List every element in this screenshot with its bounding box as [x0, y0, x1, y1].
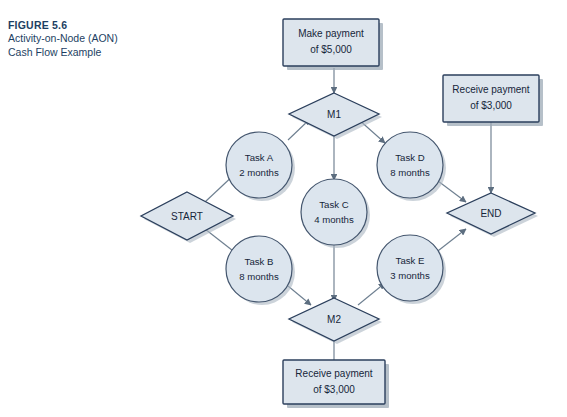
node-task-d-label-1: Task D [395, 152, 424, 163]
node-task-d-label-2: 8 months [390, 167, 430, 178]
node-task-b[interactable]: Task B 8 months [226, 236, 295, 305]
node-m1[interactable]: M1 [289, 93, 382, 139]
node-receive-payment-bottom[interactable]: Receive payment of $3,000 [283, 360, 389, 408]
node-task-e[interactable]: Task E 3 months [377, 235, 446, 304]
node-task-c-label-2: 4 months [314, 214, 354, 225]
node-receive-right-label-2: of $3,000 [470, 100, 512, 111]
node-m1-label: M1 [327, 109, 341, 120]
node-start[interactable]: START [141, 192, 236, 243]
node-receive-bottom-label-2: of $3,000 [313, 384, 355, 395]
node-task-a[interactable]: Task A 2 months [226, 132, 295, 201]
edge-task-e-to-end [434, 229, 466, 254]
node-m2[interactable]: M2 [289, 298, 382, 344]
node-task-c[interactable]: Task C 4 months [301, 179, 370, 248]
node-make-payment-label-2: of $5,000 [310, 44, 352, 55]
node-receive-payment-right[interactable]: Receive payment of $3,000 [443, 75, 543, 126]
aon-network-diagram: Make payment of $5,000 Receive payment o… [0, 0, 567, 417]
node-m2-label: M2 [327, 314, 341, 325]
node-make-payment-label-1: Make payment [298, 28, 364, 39]
node-task-b-label-2: 8 months [239, 271, 279, 282]
node-task-c-label-1: Task C [319, 199, 348, 210]
node-receive-right-label-1: Receive payment [452, 84, 529, 95]
edge-m2-to-task-e [358, 283, 385, 305]
node-make-payment[interactable]: Make payment of $5,000 [283, 19, 383, 70]
figure-page: FIGURE 5.6 Activity-on-Node (AON) Cash F… [0, 0, 567, 417]
node-task-d[interactable]: Task D 8 months [377, 132, 446, 201]
node-end-label: END [480, 208, 501, 219]
node-task-b-label-1: Task B [245, 256, 274, 267]
node-task-e-label-2: 3 months [390, 270, 430, 281]
node-task-a-label-1: Task A [245, 152, 274, 163]
node-start-label: START [171, 211, 203, 222]
node-task-e-label-1: Task E [396, 255, 425, 266]
edge-task-b-to-m2 [288, 286, 311, 305]
node-receive-bottom-label-1: Receive payment [295, 368, 372, 379]
node-task-a-label-2: 2 months [239, 167, 279, 178]
node-end[interactable]: END [447, 193, 538, 237]
